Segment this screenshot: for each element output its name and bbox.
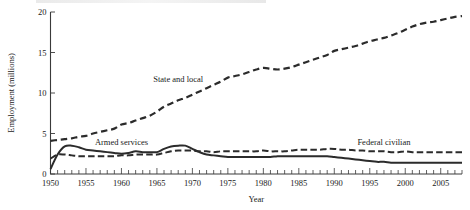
- x-tick-label: 1965: [148, 178, 165, 188]
- x-tick-label: 1990: [326, 178, 343, 188]
- axis-spine: [51, 12, 463, 174]
- x-tick-label: 2005: [432, 178, 449, 188]
- ticks-group: [51, 12, 463, 174]
- x-tick-label: 1955: [77, 178, 94, 188]
- y-tick-label: 5: [42, 129, 46, 139]
- cropped-title-artifact: [36, 0, 266, 3]
- x-tick-label: 2000: [397, 178, 414, 188]
- employment-line-chart: 0510152019501955196019651970197519801985…: [0, 0, 470, 210]
- series-line-state-and-local: [51, 16, 463, 141]
- axes-group: [51, 12, 463, 174]
- x-tick-label: 1985: [290, 178, 307, 188]
- x-axis-title: Year: [248, 194, 264, 204]
- x-tick-label: 1960: [113, 178, 130, 188]
- chart-canvas: 0510152019501955196019651970197519801985…: [0, 0, 470, 210]
- y-tick-label: 20: [38, 7, 47, 17]
- x-tick-label: 1970: [184, 178, 201, 188]
- series-label-federal-civilian: Federal civilian: [357, 137, 411, 147]
- x-tick-label: 1995: [361, 178, 378, 188]
- y-tick-label: 10: [38, 88, 47, 98]
- x-tick-label: 1980: [255, 178, 272, 188]
- series-label-armed-services: Armed services: [95, 137, 148, 147]
- y-axis-title: Employment (millions): [6, 53, 16, 133]
- series-line-armed-services: [51, 145, 463, 169]
- x-tick-label: 1975: [219, 178, 236, 188]
- series-label-state-and-local: State and local: [153, 74, 204, 84]
- y-tick-label: 15: [38, 48, 47, 58]
- x-tick-label: 1950: [42, 178, 59, 188]
